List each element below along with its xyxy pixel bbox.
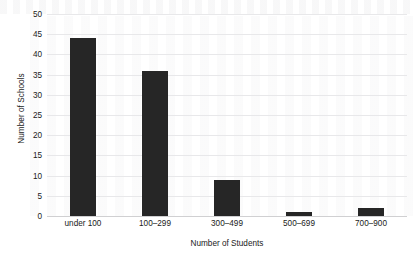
bar-column	[191, 14, 263, 216]
x-axis-tick-label: 300–499	[191, 219, 263, 228]
x-axis-tick-label: 100–299	[119, 219, 191, 228]
bar-column	[47, 14, 119, 216]
x-axis-line: 0	[47, 216, 407, 217]
bar	[142, 71, 168, 216]
x-axis-tick-labels: under 100100–299300–499500–699700–900	[47, 219, 407, 228]
x-axis-tick-label: 500–699	[263, 219, 335, 228]
bar	[286, 212, 312, 216]
y-axis-tick-label: 25	[33, 111, 42, 120]
x-axis-title: Number of Students	[47, 239, 407, 248]
y-axis-tick-label: 15	[33, 151, 42, 160]
x-axis-tick-label: under 100	[47, 219, 119, 228]
y-axis-tick-label: 10	[33, 171, 42, 180]
y-axis-title: Number of Schools	[17, 44, 26, 174]
bar	[358, 208, 384, 216]
y-axis-tick-label: 50	[33, 10, 42, 19]
page-bleed-through-top	[0, 0, 414, 14]
bar-chart-figure: Number of Schools 05101520253035404550 u…	[0, 0, 414, 259]
x-axis-tick-label: 700–900	[335, 219, 407, 228]
y-axis-tick-label: 35	[33, 70, 42, 79]
bar	[214, 180, 240, 216]
bar	[70, 38, 96, 216]
bar-column	[119, 14, 191, 216]
y-axis-tick-label: 5	[37, 191, 42, 200]
y-axis-tick-label: 30	[33, 90, 42, 99]
bar-column	[263, 14, 335, 216]
y-axis-tick-label: 20	[33, 131, 42, 140]
bar-series	[47, 14, 407, 216]
bar-column	[335, 14, 407, 216]
y-axis-tick-label: 45	[33, 30, 42, 39]
y-axis-tick-label: 40	[33, 50, 42, 59]
y-axis-tick-label: 0	[37, 212, 42, 221]
plot-area: 05101520253035404550	[47, 14, 407, 216]
